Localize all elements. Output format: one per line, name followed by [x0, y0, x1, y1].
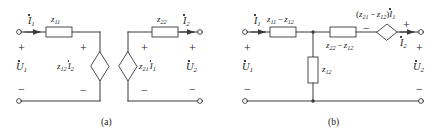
label-a-left-polarity-plus: + — [18, 42, 25, 54]
label-a-source-right-plus: + — [141, 42, 148, 54]
label-a-left-polarity-minus: − — [18, 83, 25, 95]
label-a-voltage-u1: U1 — [16, 62, 27, 74]
terminal-a-left-top — [17, 30, 22, 35]
label-a-right-polarity-plus: + — [189, 42, 196, 54]
label-b-current-i1: I1 — [254, 16, 261, 28]
terminal-a-right-top — [198, 30, 203, 35]
label-b-voltage-u2: U2 — [413, 62, 424, 74]
label-b-series-right: z22−z12 — [326, 41, 353, 51]
label-a-current-i2: I2 — [183, 16, 190, 28]
resistor-b-shunt — [308, 57, 318, 83]
label-b-source-polarity-plus: + — [403, 19, 410, 31]
resistor-b-series-left — [270, 27, 296, 37]
label-a-source-left-plus: + — [80, 42, 87, 54]
label-a-impedance-z11: z11 — [51, 15, 60, 25]
label-b-left-polarity-plus: + — [244, 42, 251, 54]
resistor-a-z11 — [46, 27, 72, 37]
terminal-a-left-bottom — [17, 99, 22, 104]
label-a-source-right-minus: − — [141, 84, 148, 96]
label-a-source-left-minus: − — [80, 84, 87, 96]
terminal-b-right-top — [419, 30, 424, 35]
terminal-b-left-bottom — [243, 99, 248, 104]
resistor-b-series-right — [330, 27, 356, 37]
label-b-source-value: (z21−z12)I1 — [356, 10, 395, 20]
dependent-source-a-left-diamond — [91, 52, 109, 81]
label-a-voltage-u2: U2 — [186, 62, 197, 74]
label-a-impedance-z22: z22 — [157, 15, 167, 25]
label-a-right-polarity-minus: − — [189, 83, 196, 95]
dependent-source-b-diamond — [377, 24, 397, 40]
resistor-a-z22 — [152, 27, 178, 37]
label-a-source-right-value: z21I1 — [139, 62, 156, 72]
circuit-b-t-network — [243, 24, 424, 103]
caption-b: (b) — [328, 117, 339, 127]
label-b-series-left: z11−z12 — [267, 15, 294, 25]
label-a-current-i1: I1 — [28, 16, 35, 28]
label-b-right-polarity-plus: + — [416, 42, 423, 54]
caption-a: (a) — [101, 117, 112, 127]
two-port-equivalent-figure: I1 z11 + U1 − + z12I2 − + z21I1 − z22 I2… — [0, 0, 441, 137]
junction-b-top — [311, 30, 314, 33]
label-b-current-i2: I2 — [400, 38, 407, 50]
terminal-b-right-bottom — [419, 99, 424, 104]
label-b-shunt-z12: z12 — [322, 65, 332, 75]
label-b-voltage-u1: U1 — [242, 62, 253, 74]
label-b-right-polarity-minus: − — [416, 83, 423, 95]
terminal-a-right-bottom — [198, 99, 203, 104]
terminal-b-left-top — [243, 30, 248, 35]
label-b-source-polarity-minus: − — [363, 22, 370, 34]
dependent-source-a-right-diamond — [119, 52, 137, 81]
label-b-left-polarity-minus: − — [244, 83, 251, 95]
label-a-source-left-value: z12I2 — [57, 62, 74, 72]
